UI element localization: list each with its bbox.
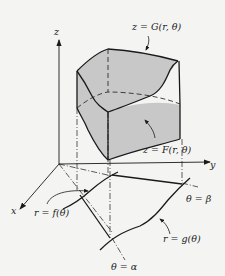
upper-surface-label: z = G(r, θ) (132, 22, 181, 32)
y-axis (59, 162, 210, 164)
x-axis (20, 164, 59, 209)
y-axis-label: y (210, 160, 215, 170)
inner-curve-label: r = f(θ) (34, 208, 69, 218)
ray-alpha-label: θ = α (111, 262, 137, 272)
x-axis-label: x (11, 206, 16, 216)
ray-beta-label: θ = β (186, 194, 211, 204)
lower-surface-label: z = F(r, θ) (143, 145, 191, 155)
outer-curve-label: r = g(θ) (163, 234, 201, 244)
z-axis-label: z (54, 27, 59, 37)
